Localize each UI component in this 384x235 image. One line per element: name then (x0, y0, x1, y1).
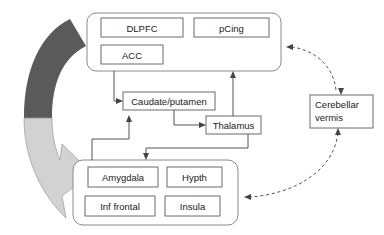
node-thalamus-label: Thalamus (213, 120, 255, 131)
connector-vermis-to-limbic (244, 133, 338, 200)
cortical-regions-group: DLPFC pCing ACC (87, 13, 281, 71)
cerebellar-vermis-node: Cerebellar vermis (310, 95, 373, 128)
curved-arrow-dark-segment (24, 19, 86, 118)
node-cerebellar-vermis-label-line2: vermis (315, 112, 343, 123)
connector-limbic-to-vermis (335, 128, 341, 135)
connector-vermis-to-cortex (286, 44, 336, 90)
connector-cortex-to-caudate (114, 71, 123, 104)
connector-thalamus-to-cortex (230, 71, 236, 116)
node-hypth-label: Hypth (182, 172, 207, 183)
arrowhead-into-caudate (116, 98, 123, 104)
arrowhead-into-thalamus (199, 122, 206, 128)
circuit-diagram: DLPFC pCing ACC Caudate/putamen Thalamus… (0, 0, 384, 235)
connector-caudate-to-thalamus (174, 110, 206, 128)
thalamus-node: Thalamus (206, 116, 261, 134)
caudate-putamen-node: Caudate/putamen (123, 92, 215, 110)
node-caudate-label: Caudate/putamen (131, 96, 207, 107)
node-pcing-label: pCing (219, 23, 244, 34)
node-insula-label: Insula (180, 201, 206, 212)
arrowhead-into-caudate-from-limbic (126, 115, 132, 122)
arrowhead-into-limbic-dashed (244, 194, 251, 200)
connector-thalamus-to-limbic (143, 134, 248, 160)
node-dlpfc-label: DLPFC (126, 23, 157, 34)
node-amygdala-label: Amygdala (102, 172, 145, 183)
arrowhead-into-cortex (230, 71, 236, 78)
arrowhead-into-vermis-top (338, 88, 344, 95)
diagram-canvas: DLPFC pCing ACC Caudate/putamen Thalamus… (0, 0, 384, 235)
arrowhead-into-vermis-bottom (335, 128, 341, 135)
node-cerebellar-vermis-label-line1: Cerebellar (315, 99, 359, 110)
node-inf-frontal-label: Inf frontal (100, 201, 140, 212)
arrowhead-into-cortex-dashed (286, 44, 293, 50)
limbic-regions-group: Amygdala Hypth Inf frontal Insula (73, 160, 238, 225)
arrowhead-into-limbic (143, 153, 149, 160)
node-acc-label: ACC (122, 50, 142, 61)
connector-cortex-to-vermis (338, 88, 344, 95)
connector-limbic-to-caudate (92, 115, 132, 160)
